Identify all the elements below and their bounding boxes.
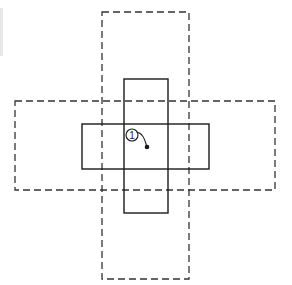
diagram-canvas: 1 [0, 0, 292, 285]
cross-regions-diagram: 1 [0, 0, 292, 285]
outer-horizontal-dashed-rect [15, 101, 275, 190]
callout-marker: 1 [126, 129, 149, 149]
callout-point-dot [145, 145, 150, 150]
callout-label: 1 [129, 130, 135, 141]
